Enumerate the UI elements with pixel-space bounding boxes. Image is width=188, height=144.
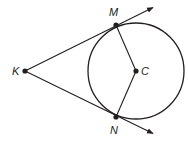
label-c: C [141, 65, 149, 77]
segment-mc [116, 25, 136, 71]
point-c [133, 68, 138, 73]
label-n: N [110, 124, 118, 136]
point-k [22, 68, 27, 73]
label-m: M [109, 6, 119, 18]
point-m [113, 22, 118, 27]
label-k: K [12, 65, 20, 77]
geometry-diagram: K M N C [0, 0, 188, 144]
point-n [113, 114, 118, 119]
segment-nc [116, 71, 136, 117]
